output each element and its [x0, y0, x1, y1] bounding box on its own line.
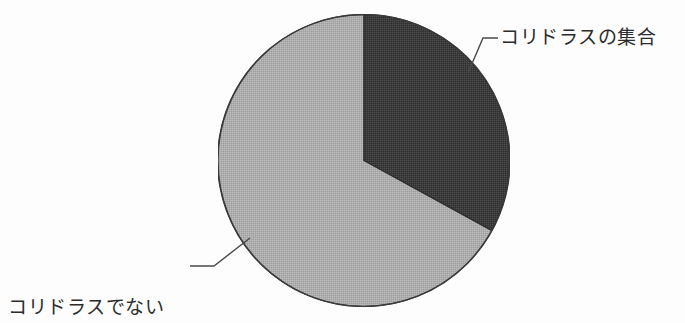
pie-label-light-slice: コリドラスでない 魚の集合	[8, 245, 188, 323]
pie-svg	[218, 14, 510, 307]
pie-graphic	[218, 14, 510, 307]
pie-label-light-slice-line1: コリドラスでない	[8, 295, 188, 320]
pie-chart-figure: コリドラスの集合 コリドラスでない 魚の集合	[0, 0, 685, 323]
pie-label-dark-slice: コリドラスの集合	[500, 25, 656, 50]
